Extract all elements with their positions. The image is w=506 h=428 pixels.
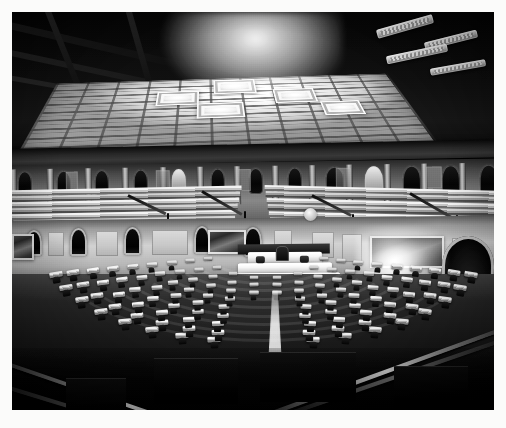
arc-6-chair-2: [366, 276, 372, 282]
arc-7-chair-1: [355, 265, 361, 270]
arc-2-chair-15: [111, 308, 119, 315]
arc-7-desk-4: [315, 284, 325, 288]
arc-5-chair-4: [350, 298, 357, 304]
coffer-far-right: [320, 100, 366, 115]
arc-6-chair-10: [205, 298, 211, 303]
foreground-gallery-rail: [12, 348, 494, 410]
arc-4-chair-10: [220, 318, 227, 324]
arc-2-chair-14: [133, 317, 141, 324]
arc-2-chair-17: [79, 286, 87, 293]
arc-3-chair-13: [134, 306, 142, 313]
arc-3-chair-16: [89, 272, 97, 279]
arc-4-chair-4: [372, 301, 379, 307]
arc-1-chair-14: [121, 323, 129, 330]
arc-6-chair-9: [227, 302, 233, 307]
arc-3-chair-6: [336, 322, 343, 328]
arc-5-chair-13: [138, 280, 145, 286]
arc-9-desk-7: [213, 265, 222, 269]
arc-1-chair-1: [467, 276, 476, 284]
arc-2-chair-8: [305, 335, 313, 342]
arc-2-chair-2: [440, 286, 448, 293]
arc-2-chair-13: [158, 325, 166, 332]
arc-9-desk-4: [273, 275, 281, 279]
arc-5-chair-6: [302, 310, 308, 316]
arc-7-desk-11: [175, 269, 185, 274]
arc-4-chair-5: [351, 308, 358, 314]
arc-7-desk-1: [353, 260, 363, 265]
arc-7-chair-7: [250, 296, 256, 301]
arc-7-chair-2: [347, 274, 353, 279]
arc-6-desk-1: [372, 262, 383, 267]
arc-3-chair-14: [115, 296, 123, 303]
arc-1-chair-3: [441, 302, 450, 310]
coffer-center-top-core: [221, 83, 249, 89]
arc-1-chair-6: [371, 331, 379, 338]
arc-4-chair-6: [327, 314, 334, 320]
arc-6-desk-2: [364, 271, 374, 276]
foreground-block-3: [66, 378, 126, 410]
arc-4-chair-11: [194, 314, 201, 320]
ceiling-light-fixture-4: [430, 59, 486, 76]
ceiling-light-fixture-3: [386, 44, 448, 65]
ceiling-fixture-grille-3: [390, 46, 444, 61]
arc-2-chair-11: [215, 335, 223, 342]
arc-9-desk-6: [229, 272, 238, 276]
foreground-block-1: [154, 358, 238, 404]
arc-1-chair-13: [148, 331, 156, 338]
arc-5-chair-11: [172, 298, 179, 304]
arc-1-chair-16: [78, 302, 87, 310]
arc-7-desk-12: [167, 260, 177, 265]
arc-8-desk-2: [328, 267, 337, 271]
coffer-mid: [197, 102, 246, 119]
coffer-mid-core: [205, 107, 237, 113]
foreground-block-2: [260, 352, 356, 402]
arc-4-chair-12: [170, 308, 177, 314]
arc-2-chair-6: [362, 325, 370, 332]
arc-5-desk-3: [367, 284, 378, 289]
arc-6-desk-4: [336, 287, 346, 292]
arc-8-desk-3: [313, 275, 322, 279]
arc-8-desk-7: [228, 280, 237, 284]
arc-9-desk-3: [294, 272, 303, 276]
arc-3-chair-11: [185, 322, 192, 328]
arc-6-desk-14: [147, 262, 158, 267]
arc-4-chair-15: [118, 282, 125, 288]
arc-1-chair-18: [52, 276, 61, 284]
arc-1-chair-7: [341, 338, 349, 345]
arc-7-desk-8: [226, 288, 236, 292]
arc-4-chair-7: [302, 318, 309, 324]
arc-4-chair-1: [412, 271, 419, 277]
arc-7-desk-10: [189, 277, 199, 282]
wall-mural-1: [12, 234, 34, 260]
arc-5-desk-5: [325, 300, 336, 305]
arc-3-chair-4: [386, 306, 394, 313]
ceiling-light-fixture-group: [368, 20, 494, 96]
arc-5-chair-5: [327, 305, 334, 311]
arc-6-desk-3: [352, 280, 362, 285]
arc-7-desk-7: [249, 290, 259, 294]
arc-2-chair-18: [70, 274, 78, 281]
arc-8-desk-5: [272, 283, 281, 287]
arc-3-chair-10: [214, 326, 221, 332]
arc-2-chair-7: [334, 331, 342, 338]
coffer-left: [155, 91, 199, 106]
arc-7-desk-5: [294, 288, 304, 292]
coffer-left-core: [164, 95, 192, 101]
arc-1-chair-12: [178, 338, 186, 345]
arc-8-desk-1: [337, 258, 346, 262]
arc-8-desk-9: [194, 267, 203, 271]
arc-5-chair-3: [369, 290, 376, 296]
arc-8-desk-8: [209, 275, 218, 279]
arc-8-desk-6: [250, 283, 259, 287]
arc-6-chair-12: [169, 285, 175, 291]
ceiling-fixture-grille-4: [434, 62, 482, 73]
arc-9-row: [204, 227, 324, 277]
arc-7-chair-11: [177, 274, 183, 279]
arc-5-chair-2: [383, 280, 390, 286]
arc-2-chair-12: [185, 331, 193, 338]
coffer-center-top: [213, 79, 256, 94]
arc-9-desk-2: [310, 265, 319, 269]
arc-6-chair-5: [318, 298, 324, 303]
arc-8-desk-10: [185, 258, 194, 262]
arc-7-desk-3: [332, 277, 342, 282]
